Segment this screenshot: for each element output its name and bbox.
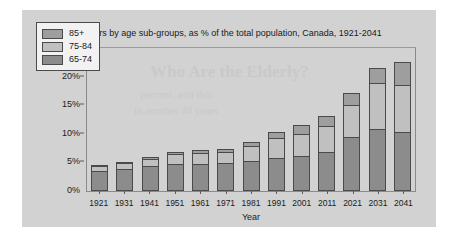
x-axis-tick-label: 2011 bbox=[315, 198, 340, 208]
bar-segment[interactable] bbox=[217, 163, 234, 191]
x-axis-tick-mark bbox=[149, 190, 150, 194]
bar-slot bbox=[264, 48, 289, 191]
x-axis-tick-label: 2041 bbox=[391, 198, 416, 208]
x-axis-tick bbox=[264, 190, 289, 198]
bar-segment[interactable] bbox=[293, 156, 310, 191]
legend-item-label: 75-84 bbox=[69, 42, 92, 51]
legend-item-label: 85+ bbox=[69, 29, 84, 38]
bars-container bbox=[87, 48, 415, 191]
bar-segment[interactable] bbox=[369, 83, 386, 129]
bar-segment[interactable] bbox=[142, 159, 159, 166]
bar-segment[interactable] bbox=[318, 116, 335, 127]
x-axis-tick-label: 2021 bbox=[340, 198, 365, 208]
bar-slot bbox=[112, 48, 137, 191]
stacked-bar[interactable] bbox=[91, 165, 108, 191]
stacked-bar[interactable] bbox=[116, 162, 133, 191]
x-axis-tick-mark bbox=[124, 190, 125, 194]
stacked-bar[interactable] bbox=[369, 68, 386, 191]
y-axis-tick-label: 15% bbox=[62, 99, 80, 109]
x-axis-tick-mark bbox=[251, 190, 252, 194]
bar-segment[interactable] bbox=[142, 166, 159, 191]
y-axis-tick-label: 0% bbox=[67, 185, 80, 195]
x-axis-tick-mark bbox=[327, 190, 328, 194]
bar-segment[interactable] bbox=[91, 171, 108, 191]
bar-segment[interactable] bbox=[268, 158, 285, 191]
x-axis-tick bbox=[213, 190, 238, 198]
bar-segment[interactable] bbox=[192, 153, 209, 164]
x-axis-tick bbox=[315, 190, 340, 198]
stacked-bar[interactable] bbox=[243, 142, 260, 191]
bar-segment[interactable] bbox=[167, 154, 184, 164]
x-axis-tick-mark bbox=[200, 190, 201, 194]
y-axis-tick-mark bbox=[80, 75, 84, 76]
stacked-bar[interactable] bbox=[343, 93, 360, 191]
bar-segment[interactable] bbox=[167, 164, 184, 191]
legend-item[interactable]: 75-84 bbox=[42, 40, 92, 53]
x-axis-tick bbox=[238, 190, 263, 198]
bar-segment[interactable] bbox=[394, 62, 411, 84]
stacked-bar[interactable] bbox=[293, 125, 310, 191]
x-axis-title: Year bbox=[86, 212, 416, 222]
stacked-bar[interactable] bbox=[268, 132, 285, 191]
x-axis-tick-mark bbox=[353, 190, 354, 194]
stacked-bar[interactable] bbox=[192, 150, 209, 191]
y-axis-tick-label: 20% bbox=[62, 71, 80, 81]
x-axis-labels: 1921193119411951196119711981199120012011… bbox=[86, 198, 416, 208]
stacked-bar[interactable] bbox=[394, 62, 411, 191]
bar-segment[interactable] bbox=[293, 134, 310, 156]
x-axis-ticks bbox=[86, 190, 416, 198]
y-axis-tick-mark bbox=[80, 161, 84, 162]
bar-segment[interactable] bbox=[394, 132, 411, 191]
bar-segment[interactable] bbox=[318, 126, 335, 152]
x-axis-tick-label: 2031 bbox=[365, 198, 390, 208]
bar-slot bbox=[213, 48, 238, 191]
bar-segment[interactable] bbox=[268, 138, 285, 157]
legend-swatch-icon bbox=[42, 55, 63, 65]
x-axis-tick-label: 1951 bbox=[162, 198, 187, 208]
bar-segment[interactable] bbox=[369, 129, 386, 191]
x-axis-tick bbox=[137, 190, 162, 198]
bar-segment[interactable] bbox=[343, 137, 360, 191]
y-axis-tick-mark bbox=[80, 104, 84, 105]
bar-segment[interactable] bbox=[343, 105, 360, 138]
x-axis-tick-label: 1971 bbox=[213, 198, 238, 208]
plot-area bbox=[86, 47, 416, 192]
legend-item[interactable]: 85+ bbox=[42, 27, 92, 40]
x-axis-tick-label: 1981 bbox=[238, 198, 263, 208]
bar-segment[interactable] bbox=[318, 152, 335, 191]
bar-slot bbox=[137, 48, 162, 191]
x-axis-tick-mark bbox=[378, 190, 379, 194]
x-axis-tick-label: 1931 bbox=[111, 198, 136, 208]
x-axis-tick bbox=[391, 190, 416, 198]
x-axis-tick-mark bbox=[99, 190, 100, 194]
bar-segment[interactable] bbox=[192, 164, 209, 191]
x-axis-tick-label: 2001 bbox=[289, 198, 314, 208]
x-axis-tick bbox=[86, 190, 111, 198]
stacked-bar[interactable] bbox=[142, 157, 159, 191]
x-axis-tick bbox=[340, 190, 365, 198]
bar-segment[interactable] bbox=[243, 161, 260, 191]
y-axis-tick-mark bbox=[80, 132, 84, 133]
bar-slot bbox=[238, 48, 263, 191]
stacked-bar[interactable] bbox=[217, 149, 234, 191]
bar-segment[interactable] bbox=[293, 125, 310, 134]
bar-slot bbox=[339, 48, 364, 191]
bar-segment[interactable] bbox=[116, 169, 133, 191]
legend-swatch-icon bbox=[42, 29, 63, 39]
chart-card: Who Are the Elderly? percent, and this i… bbox=[22, 10, 436, 227]
stacked-bar[interactable] bbox=[167, 152, 184, 191]
bar-segment[interactable] bbox=[394, 85, 411, 132]
bar-slot bbox=[163, 48, 188, 191]
stacked-bar[interactable] bbox=[318, 116, 335, 191]
bar-segment[interactable] bbox=[343, 93, 360, 104]
bar-segment[interactable] bbox=[243, 146, 260, 161]
bar-slot bbox=[314, 48, 339, 191]
x-axis-tick bbox=[289, 190, 314, 198]
legend-item[interactable]: 65-74 bbox=[42, 53, 92, 66]
bar-segment[interactable] bbox=[268, 132, 285, 139]
bar-segment[interactable] bbox=[217, 152, 234, 163]
x-axis-tick-label: 1941 bbox=[137, 198, 162, 208]
x-axis-tick-mark bbox=[226, 190, 227, 194]
bar-segment[interactable] bbox=[369, 68, 386, 83]
x-axis-tick bbox=[162, 190, 187, 198]
